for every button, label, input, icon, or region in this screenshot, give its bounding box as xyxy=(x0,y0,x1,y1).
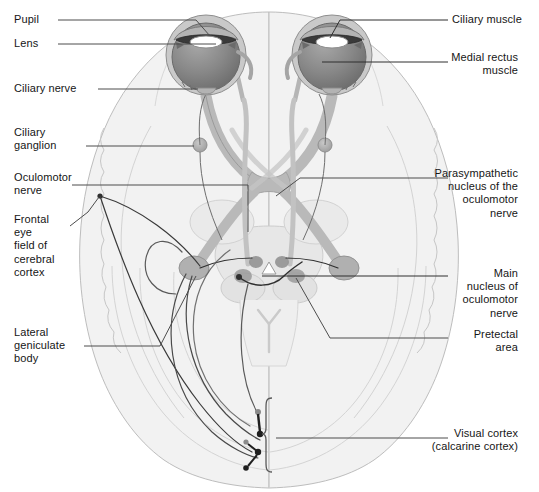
label-visual-cortex: Visual cortex (calcarine cortex) xyxy=(380,427,518,453)
label-pupil: Pupil xyxy=(14,13,39,26)
label-frontal-eye-field: Frontal eye field of cerebral cortex xyxy=(14,213,55,279)
lens-left xyxy=(190,36,222,48)
label-oculomotor-nerve: Oculomotor nerve xyxy=(14,171,72,197)
label-lateral-geniculate-body: Lateral geniculate body xyxy=(14,326,65,366)
lens-right xyxy=(316,36,348,48)
label-ciliary-ganglion: Ciliary ganglion xyxy=(14,126,56,152)
label-parasympathetic-nucleus: Parasympathetic nucleus of the oculomoto… xyxy=(380,167,518,220)
label-pretectal-area: Pretectal area xyxy=(380,328,518,354)
label-ciliary-nerve: Ciliary nerve xyxy=(14,82,76,95)
label-main-nucleus-oculomotor: Main nucleus of oculomotor nerve xyxy=(380,267,518,320)
label-medial-rectus-muscle: Medial rectus muscle xyxy=(380,51,518,77)
visual-pathway-diagram: Pupil Lens Ciliary nerve Ciliary ganglio… xyxy=(0,0,539,492)
label-lens: Lens xyxy=(14,37,38,50)
label-ciliary-muscle: Ciliary muscle xyxy=(452,13,522,26)
